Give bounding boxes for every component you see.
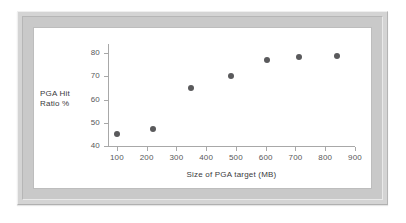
x-axis-line	[108, 146, 355, 147]
data-point	[228, 73, 234, 79]
figure-frame: 4050607080 100200300400500600700800900 P…	[17, 11, 388, 205]
x-tick	[147, 147, 148, 151]
y-tick-label: 60	[80, 95, 100, 104]
y-tick-label: 80	[80, 48, 100, 57]
x-tick-label: 400	[194, 153, 218, 162]
x-tick-label: 600	[254, 153, 278, 162]
x-tick-label: 800	[313, 153, 337, 162]
y-tick	[104, 146, 108, 147]
data-point	[296, 54, 302, 60]
x-tick-label: 900	[343, 153, 367, 162]
y-tick-label: 50	[80, 118, 100, 127]
x-tick	[206, 147, 207, 151]
y-tick-label: 70	[80, 71, 100, 80]
x-axis-title: Size of PGA target (MB)	[108, 170, 355, 179]
data-point	[114, 131, 120, 137]
data-point	[150, 126, 156, 132]
y-axis-title-line-1: PGA Hit	[40, 89, 70, 99]
y-axis-title: PGA Hit Ratio %	[40, 89, 70, 109]
y-tick	[104, 76, 108, 77]
y-tick-label: 40	[80, 141, 100, 150]
y-tick	[104, 100, 108, 101]
x-tick	[355, 147, 356, 151]
x-tick	[176, 147, 177, 151]
x-tick	[266, 147, 267, 151]
y-tick	[104, 123, 108, 124]
y-axis-title-line-2: Ratio %	[40, 99, 70, 109]
data-point	[264, 57, 270, 63]
data-point	[334, 53, 340, 59]
x-tick	[236, 147, 237, 151]
x-tick-label: 200	[135, 153, 159, 162]
x-tick-label: 500	[224, 153, 248, 162]
chart-canvas: 4050607080 100200300400500600700800900 P…	[33, 27, 372, 189]
x-tick-label: 300	[164, 153, 188, 162]
frame-bevel: 4050607080 100200300400500600700800900 P…	[22, 16, 383, 200]
screenshot-root: 4050607080 100200300400500600700800900 P…	[0, 0, 406, 223]
y-axis-line	[108, 44, 109, 146]
x-tick-label: 700	[283, 153, 307, 162]
data-point	[188, 85, 194, 91]
x-tick	[295, 147, 296, 151]
y-tick	[104, 53, 108, 54]
x-tick	[325, 147, 326, 151]
x-tick-label: 100	[105, 153, 129, 162]
x-tick	[117, 147, 118, 151]
